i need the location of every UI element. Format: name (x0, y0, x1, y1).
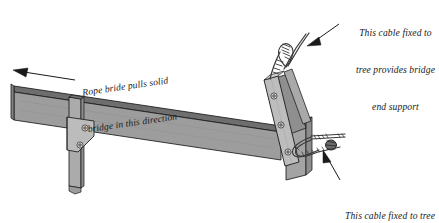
annotation-left-line2: bridge in this direction (87, 111, 178, 136)
beam-left-end (11, 84, 14, 120)
end-timber-block-side (306, 117, 312, 175)
annotation-top-right: This cable fixed to tree provides bridge… (356, 2, 435, 138)
end-plate-bolt-3 (285, 149, 291, 155)
annotation-left-line1: Rope bride pulls solid (82, 74, 173, 99)
arrow-to-lower-cable (323, 150, 340, 180)
annotation-bottom-right-line1: This cable fixed to tree (345, 210, 435, 222)
end-plate-bolt-1 (271, 93, 277, 99)
end-plate-bolt-2 (278, 122, 284, 128)
annotation-bottom-right: This cable fixed to tree resists pull of… (345, 185, 435, 223)
annotation-top-right-line2: tree provides bridge (356, 64, 435, 76)
diagram-root: This cable fixed to tree provides bridge… (0, 0, 439, 223)
left-gusset-bolt-2 (77, 142, 83, 148)
annotation-top-right-line3: end support (356, 101, 435, 113)
arrow-pointing-left (13, 68, 75, 80)
annotation-left: Rope bride pulls solid bridge in this di… (78, 49, 181, 160)
annotation-top-right-line1: This cable fixed to (356, 27, 435, 39)
arrow-to-upper-cable (307, 24, 339, 46)
